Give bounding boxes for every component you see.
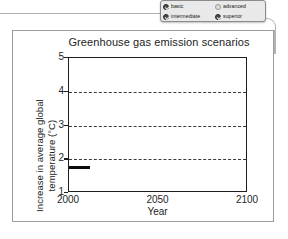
connector-line-down (274, 30, 276, 54)
y-tick-label-4: 4 (48, 86, 64, 96)
y-tick-label-5: 5 (48, 52, 64, 62)
chart-title: Greenhouse gas emission scenarios (56, 36, 262, 48)
y-tick-4 (64, 91, 68, 92)
x-tick-label-2100: 2100 (227, 194, 267, 205)
y-tick-5 (64, 57, 68, 58)
option-superior[interactable]: superior (215, 12, 269, 22)
connector-line-left (0, 13, 168, 14)
option-advanced[interactable]: advanced (215, 2, 269, 12)
x-tick-label-2050: 2050 (138, 194, 178, 205)
x-tick-label-2000: 2000 (48, 194, 88, 205)
y-tick-label-2: 2 (48, 153, 64, 163)
check-circle-filled-icon (163, 4, 169, 10)
option-advanced-label: advanced (223, 4, 246, 9)
plot-area (68, 57, 247, 192)
option-intermediate-label: intermediate (171, 14, 200, 19)
check-circle-filled-icon (215, 14, 221, 20)
circle-empty-icon (215, 4, 221, 10)
option-intermediate[interactable]: intermediate (163, 12, 215, 22)
y-tick-2 (64, 158, 68, 159)
y-tick-3 (64, 125, 68, 126)
gridline-3 (69, 126, 246, 127)
option-basic-label: basic (171, 4, 183, 9)
gridline-2 (69, 159, 246, 160)
option-superior-label: superior (223, 14, 242, 19)
data-series-observed (69, 166, 90, 169)
gridline-4 (69, 92, 246, 93)
y-tick-label-3: 3 (48, 120, 64, 130)
option-basic[interactable]: basic (163, 2, 215, 12)
x-axis-title: Year (68, 206, 247, 217)
difficulty-options-panel[interactable]: basic advanced intermediate superior (160, 0, 266, 22)
check-circle-filled-icon (163, 14, 169, 20)
